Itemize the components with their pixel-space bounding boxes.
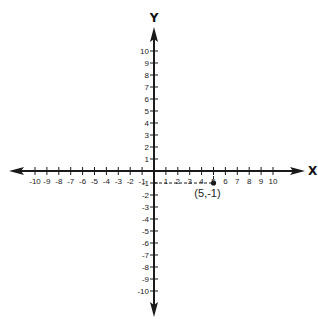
x-tick-label: 10 (269, 177, 278, 186)
x-tick-label: -6 (79, 177, 87, 186)
y-tick-label: 2 (145, 143, 150, 152)
y-tick-label: 8 (145, 71, 150, 80)
x-tick-label: 9 (259, 177, 264, 186)
x-tick-label: -5 (91, 177, 99, 186)
x-tick-label: 6 (223, 177, 228, 186)
y-tick-label: -3 (142, 203, 150, 212)
y-tick-label: 7 (145, 83, 150, 92)
y-tick-label: -2 (142, 191, 150, 200)
x-tick-label: -2 (127, 177, 135, 186)
y-axis-label: Y (149, 11, 159, 25)
x-tick-label: -9 (43, 177, 51, 186)
y-tick-label: -7 (142, 251, 150, 260)
y-tick-label: 6 (145, 95, 150, 104)
y-tick-label: -6 (142, 239, 150, 248)
coordinate-plane: XY-10-9-8-7-6-5-4-3-2-112345678910109876… (0, 0, 318, 319)
y-tick-label: 1 (145, 155, 150, 164)
x-tick-label: -3 (115, 177, 123, 186)
x-tick-label: -4 (103, 177, 111, 186)
x-tick-label: 3 (187, 177, 192, 186)
y-tick-label: -9 (142, 275, 150, 284)
x-tick-label: 8 (247, 177, 252, 186)
y-tick-label: -10 (137, 287, 149, 296)
y-tick-label: 3 (145, 131, 150, 140)
x-axis-label: X (308, 164, 318, 178)
x-tick-label: 7 (235, 177, 240, 186)
point-label: (5,-1) (194, 187, 220, 199)
x-tick-label: -7 (67, 177, 75, 186)
y-tick-label: 9 (145, 59, 150, 68)
x-tick-label: 4 (199, 177, 204, 186)
y-tick-label: 4 (145, 119, 150, 128)
y-tick-label: -4 (142, 215, 150, 224)
plotted-point (211, 180, 216, 185)
y-tick-label: -8 (142, 263, 150, 272)
x-tick-label: 1 (164, 177, 169, 186)
y-tick-label: -5 (142, 227, 150, 236)
y-tick-label: 5 (145, 107, 150, 116)
y-tick-label: 10 (140, 47, 149, 56)
x-tick-label: -8 (55, 177, 63, 186)
x-tick-label: -10 (29, 177, 41, 186)
y-tick-label: -1 (142, 179, 150, 188)
x-tick-label: 2 (176, 177, 181, 186)
